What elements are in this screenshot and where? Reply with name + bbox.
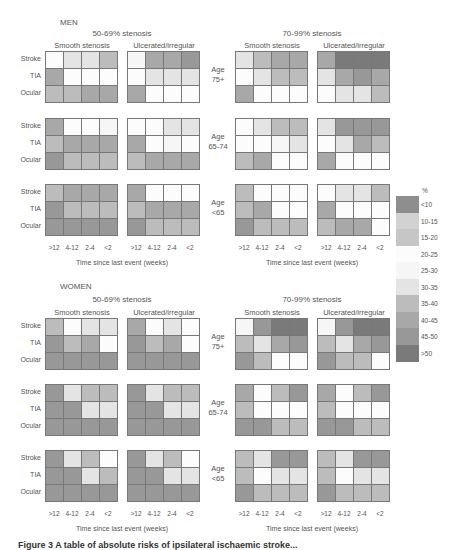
heatmap-cell <box>236 69 253 85</box>
heatmap-cell <box>272 485 289 501</box>
heatmap-cell <box>354 136 371 152</box>
heatmap-cell <box>354 451 371 467</box>
heatmap-cell <box>146 353 163 369</box>
heatmap-cell <box>82 185 99 201</box>
heatmap-cell <box>128 402 145 418</box>
x-tick-label: <2 <box>99 510 117 517</box>
heatmap-cell <box>100 319 117 335</box>
heatmap-cell <box>372 202 389 218</box>
heatmap-cell <box>354 485 371 501</box>
heatmap-cell <box>100 219 117 235</box>
heatmap-cell <box>82 485 99 501</box>
heatmap-cell <box>100 353 117 369</box>
heatmap-cell <box>254 319 271 335</box>
heatmap-cell <box>372 86 389 102</box>
heatmap-grid <box>45 450 118 502</box>
heatmap-grid <box>45 118 118 170</box>
heatmap-cell <box>182 468 199 484</box>
age-label-range: <65 <box>203 474 233 484</box>
legend-swatch <box>396 345 419 362</box>
heatmap-cell <box>318 119 335 135</box>
x-tick-label: 4-12 <box>63 244 81 251</box>
heatmap-cell <box>272 86 289 102</box>
heatmap-cell <box>182 402 199 418</box>
heatmap-cell <box>146 69 163 85</box>
heatmap-cell <box>46 52 63 68</box>
stenosis-title-50-69: 50-69% stenosis <box>45 295 199 304</box>
age-label-range: 65-74 <box>203 142 233 152</box>
heatmap-grid <box>45 51 118 103</box>
row-label-stroke: Stroke <box>1 188 41 195</box>
heatmap-cell <box>64 419 81 435</box>
heatmap-grid <box>235 118 308 170</box>
legend-label: >50 <box>421 350 432 357</box>
heatmap-cell <box>354 69 371 85</box>
heatmap-cell <box>336 52 353 68</box>
heatmap-cell <box>254 153 271 169</box>
heatmap-cell <box>82 419 99 435</box>
heatmap-cell <box>128 385 145 401</box>
heatmap-cell <box>354 219 371 235</box>
heatmap-cell <box>318 185 335 201</box>
heatmap-cell <box>182 69 199 85</box>
heatmap-cell <box>128 468 145 484</box>
heatmap-cell <box>82 153 99 169</box>
heatmap-cell <box>146 202 163 218</box>
heatmap-cell <box>64 86 81 102</box>
heatmap-cell <box>336 136 353 152</box>
heatmap-cell <box>318 485 335 501</box>
heatmap-cell <box>236 402 253 418</box>
heatmap-cell <box>100 69 117 85</box>
heatmap-cell <box>254 119 271 135</box>
heatmap-cell <box>128 185 145 201</box>
x-tick-label: >12 <box>45 244 63 251</box>
heatmap-cell <box>82 319 99 335</box>
heatmap-cell <box>46 336 63 352</box>
heatmap-cell <box>182 86 199 102</box>
heatmap-cell <box>336 419 353 435</box>
row-label-tia: TIA <box>1 405 41 412</box>
heatmap-cell <box>128 451 145 467</box>
heatmap-cell <box>146 119 163 135</box>
heatmap-cell <box>64 353 81 369</box>
heatmap-cell <box>290 485 307 501</box>
heatmap-cell <box>254 185 271 201</box>
heatmap-cell <box>46 451 63 467</box>
heatmap-cell <box>336 153 353 169</box>
legend-label: 25-30 <box>421 267 438 274</box>
heatmap-cell <box>82 385 99 401</box>
x-tick-label: 4-12 <box>335 244 353 251</box>
x-axis-label: Time since last event (weeks) <box>232 525 392 532</box>
heatmap-cell <box>290 119 307 135</box>
heatmap-cell <box>146 468 163 484</box>
heatmap-cell <box>318 86 335 102</box>
heatmap-cell <box>236 485 253 501</box>
x-axis-label: Time since last event (weeks) <box>42 525 202 532</box>
heatmap-cell <box>164 419 181 435</box>
heatmap-cell <box>82 202 99 218</box>
heatmap-cell <box>272 185 289 201</box>
heatmap-cell <box>272 119 289 135</box>
heatmap-cell <box>128 319 145 335</box>
row-label-stroke: Stroke <box>1 454 41 461</box>
heatmap-cell <box>290 52 307 68</box>
heatmap-cell <box>372 336 389 352</box>
age-label-word: Age <box>203 398 233 408</box>
heatmap-cell <box>82 119 99 135</box>
heatmap-cell <box>236 336 253 352</box>
heatmap-cell <box>290 336 307 352</box>
heatmap-cell <box>290 353 307 369</box>
heatmap-cell <box>372 153 389 169</box>
age-label: Age75+ <box>203 332 233 352</box>
heatmap-cell <box>146 136 163 152</box>
heatmap-cell <box>336 468 353 484</box>
heatmap-cell <box>164 119 181 135</box>
subtitle-smooth: Smooth stenosis <box>235 308 309 317</box>
heatmap-cell <box>254 52 271 68</box>
heatmap-cell <box>236 119 253 135</box>
heatmap-cell <box>100 419 117 435</box>
heatmap-cell <box>82 468 99 484</box>
heatmap-cell <box>318 353 335 369</box>
heatmap-cell <box>272 419 289 435</box>
x-tick-label: 2-4 <box>163 244 181 251</box>
